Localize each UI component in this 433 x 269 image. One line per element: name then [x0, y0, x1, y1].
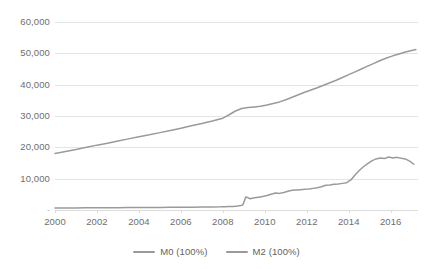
x-tick-2012: [307, 210, 308, 213]
legend-swatch-icon: [133, 251, 155, 253]
y-tick-label-10000: 10,000: [0, 174, 50, 184]
y-tick-label-40000: 40,000: [0, 80, 50, 90]
series-layer: [55, 22, 418, 210]
x-tick-label-2010: 2010: [254, 216, 276, 228]
x-tick-label-2012: 2012: [296, 216, 318, 228]
x-tick-2006: [181, 210, 182, 213]
x-tick-label-2000: 2000: [44, 216, 66, 228]
money-supply-line-chart: -10,00020,00030,00040,00050,00060,000 20…: [0, 0, 433, 269]
y-tick-label-30000: 30,000: [0, 111, 50, 121]
y-tick-label-60000: 60,000: [0, 17, 50, 27]
chart-legend: M0 (100%)M2 (100%): [0, 246, 433, 257]
plot-area: [55, 22, 418, 210]
legend-item-m2[interactable]: M2 (100%): [226, 246, 300, 257]
x-tick-2004: [139, 210, 140, 213]
legend-swatch-icon: [226, 251, 248, 253]
y-axis: -10,00020,00030,00040,00050,00060,000: [0, 0, 50, 269]
gridline-0: [55, 210, 418, 211]
legend-item-m0[interactable]: M0 (100%): [133, 246, 207, 257]
y-tick-label-50000: 50,000: [0, 48, 50, 58]
x-tick-2008: [223, 210, 224, 213]
x-tick-label-2004: 2004: [128, 216, 150, 228]
x-tick-2010: [265, 210, 266, 213]
y-tick-label-20000: 20,000: [0, 142, 50, 152]
x-tick-label-2006: 2006: [170, 216, 192, 228]
x-tick-label-2002: 2002: [86, 216, 108, 228]
legend-label: M0 (100%): [160, 246, 207, 257]
x-tick-label-2016: 2016: [380, 216, 402, 228]
x-tick-label-2008: 2008: [212, 216, 234, 228]
y-tick-label-0: -: [0, 205, 50, 215]
x-axis: 200020022004200620082010201220142016: [55, 216, 418, 230]
x-tick-label-2014: 2014: [338, 216, 360, 228]
x-tick-2016: [391, 210, 392, 213]
series-line-m0: [55, 157, 414, 208]
x-tick-2014: [349, 210, 350, 213]
series-line-m2: [55, 50, 416, 154]
x-tick-2000: [55, 210, 56, 213]
x-tick-2002: [97, 210, 98, 213]
legend-label: M2 (100%): [253, 246, 300, 257]
